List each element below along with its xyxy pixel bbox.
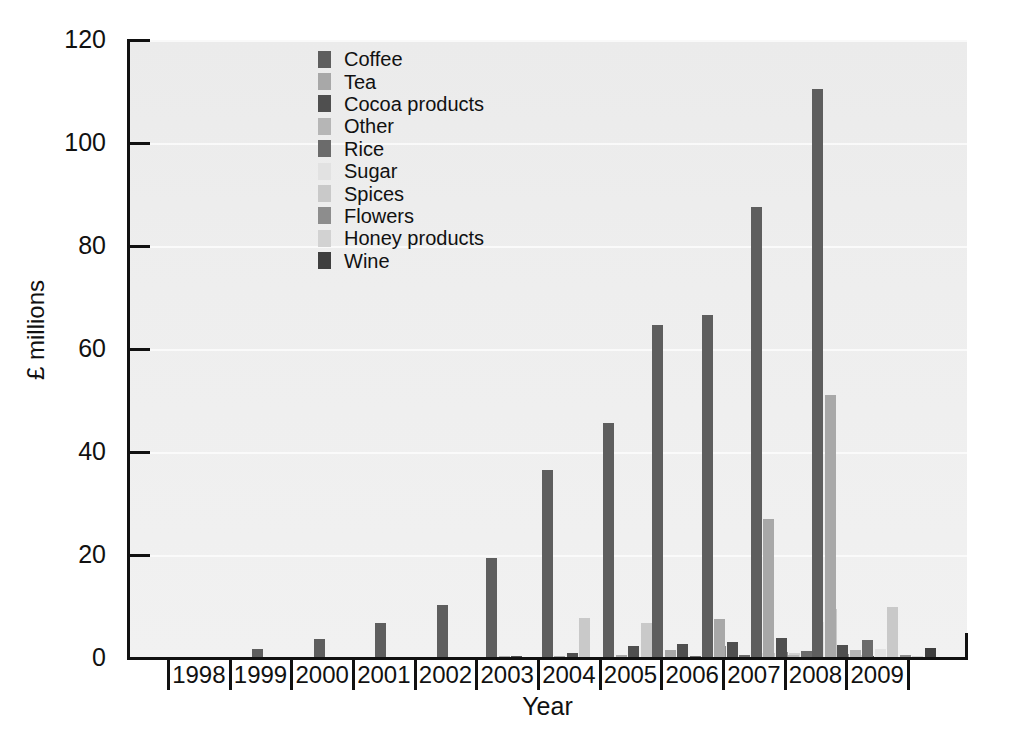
legend-swatch-icon bbox=[318, 140, 331, 157]
bar-2000-coffee bbox=[314, 639, 325, 658]
y-axis-title: £ millions bbox=[24, 250, 48, 410]
bar-2002-coffee bbox=[437, 605, 448, 658]
x-tick-label-1999: 1999 bbox=[230, 661, 292, 689]
legend-swatch-icon bbox=[318, 230, 331, 247]
legend-label: Cocoa products bbox=[344, 94, 484, 114]
legend-swatch-icon bbox=[318, 185, 331, 202]
legend: CoffeeTeaCocoa productsOtherRiceSugarSpi… bbox=[318, 48, 548, 272]
x-tick-label-2003: 2003 bbox=[476, 661, 538, 689]
bar-2001-coffee bbox=[375, 623, 386, 658]
legend-swatch-icon bbox=[318, 73, 331, 90]
bar-2009-tea bbox=[825, 395, 836, 658]
x-tick-label-2009: 2009 bbox=[846, 661, 908, 689]
x-tick-label-2006: 2006 bbox=[661, 661, 723, 689]
legend-swatch-icon bbox=[318, 207, 331, 224]
legend-label: Honey products bbox=[344, 228, 484, 248]
legend-swatch-icon bbox=[318, 118, 331, 135]
legend-item-cocoa-products[interactable]: Cocoa products bbox=[318, 93, 548, 115]
x-tick-label-2001: 2001 bbox=[353, 661, 415, 689]
gridline-120 bbox=[128, 40, 967, 42]
bar-2007-coffee bbox=[702, 315, 713, 659]
bar-2008-tea bbox=[763, 519, 774, 658]
y-tick-100 bbox=[128, 142, 150, 145]
y-tick-label-60: 60 bbox=[0, 336, 118, 361]
legend-label: Sugar bbox=[344, 161, 397, 181]
y-tick-label-40: 40 bbox=[0, 439, 118, 464]
legend-item-honey-products[interactable]: Honey products bbox=[318, 227, 548, 249]
legend-swatch-icon bbox=[318, 163, 331, 180]
bar-2008-coffee bbox=[751, 207, 762, 658]
legend-swatch-icon bbox=[318, 51, 331, 68]
bar-2004-spices bbox=[579, 618, 590, 658]
legend-swatch-icon bbox=[318, 252, 331, 269]
legend-label: Rice bbox=[344, 139, 384, 159]
legend-item-spices[interactable]: Spices bbox=[318, 182, 548, 204]
bar-2009-rice bbox=[862, 640, 873, 658]
legend-label: Flowers bbox=[344, 206, 414, 226]
legend-item-other[interactable]: Other bbox=[318, 115, 548, 137]
legend-item-flowers[interactable]: Flowers bbox=[318, 205, 548, 227]
x-axis-title: Year bbox=[128, 694, 967, 719]
y-tick-60 bbox=[128, 348, 150, 351]
gridline-60 bbox=[128, 349, 967, 351]
legend-item-rice[interactable]: Rice bbox=[318, 138, 548, 160]
legend-label: Other bbox=[344, 116, 394, 136]
legend-label: Tea bbox=[344, 72, 376, 92]
bar-2008-cocoa-products bbox=[776, 638, 787, 658]
y-tick-20 bbox=[128, 554, 150, 557]
y-tick-label-20: 20 bbox=[0, 542, 118, 567]
x-tick-label-2002: 2002 bbox=[415, 661, 477, 689]
bar-2009-cocoa-products bbox=[837, 645, 848, 658]
x-tick-label-2004: 2004 bbox=[538, 661, 600, 689]
legend-label: Spices bbox=[344, 184, 404, 204]
bar-2006-coffee bbox=[652, 325, 663, 658]
bar-2005-spices bbox=[641, 623, 652, 658]
bar-2007-cocoa-products bbox=[727, 642, 738, 658]
y-tick-0 bbox=[128, 657, 150, 660]
gridline-40 bbox=[128, 452, 967, 454]
y-tick-label-80: 80 bbox=[0, 233, 118, 258]
legend-item-coffee[interactable]: Coffee bbox=[318, 48, 548, 70]
bar-2009-coffee bbox=[812, 89, 823, 658]
x-axis-line bbox=[127, 657, 968, 660]
bar-chart: 020406080100120 £ millions Year 19981999… bbox=[0, 0, 1019, 731]
bar-2003-coffee bbox=[486, 558, 497, 658]
bar-2004-coffee bbox=[542, 470, 553, 658]
y-tick-label-120: 120 bbox=[0, 27, 118, 52]
bar-2009-spices bbox=[887, 607, 898, 658]
x-tick-label-1998: 1998 bbox=[168, 661, 230, 689]
bar-2005-coffee bbox=[603, 423, 614, 658]
legend-label: Coffee bbox=[344, 49, 403, 69]
y-tick-120 bbox=[128, 39, 150, 42]
legend-swatch-icon bbox=[318, 95, 331, 112]
y-tick-label-0: 0 bbox=[0, 645, 118, 670]
x-tick-label-2005: 2005 bbox=[600, 661, 662, 689]
x-axis-right-cap bbox=[965, 633, 968, 660]
y-tick-80 bbox=[128, 245, 150, 248]
x-tick-label-2008: 2008 bbox=[785, 661, 847, 689]
legend-label: Wine bbox=[344, 251, 390, 271]
y-tick-40 bbox=[128, 451, 150, 454]
legend-item-wine[interactable]: Wine bbox=[318, 250, 548, 272]
legend-item-tea[interactable]: Tea bbox=[318, 70, 548, 92]
x-tick-label-2000: 2000 bbox=[291, 661, 353, 689]
bar-2006-cocoa-products bbox=[677, 644, 688, 658]
y-tick-label-100: 100 bbox=[0, 130, 118, 155]
bar-2007-tea bbox=[714, 619, 725, 658]
x-tick-label-2007: 2007 bbox=[723, 661, 785, 689]
legend-item-sugar[interactable]: Sugar bbox=[318, 160, 548, 182]
